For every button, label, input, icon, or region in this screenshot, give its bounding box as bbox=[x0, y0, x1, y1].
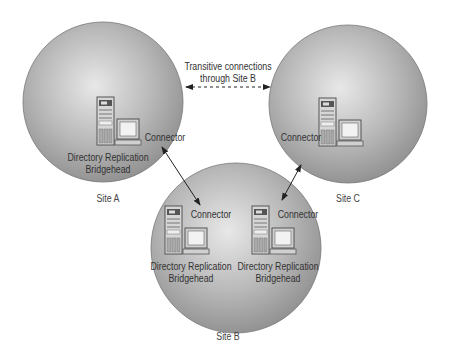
site-a-connector-label: Connector bbox=[143, 132, 187, 143]
site-b-right-connector-label: Connector bbox=[276, 209, 320, 220]
site-b-left-role-line1: Directory Replication bbox=[147, 261, 235, 272]
site-c-connector-label: Connector bbox=[279, 132, 323, 143]
site-a-role-line2: Bridgehead bbox=[64, 164, 152, 175]
site-b-right-role-line1: Directory Replication bbox=[234, 261, 322, 272]
site-c-label: Site C bbox=[322, 193, 375, 204]
site-a-role-line1: Directory Replication bbox=[64, 152, 152, 163]
site-a-label: Site A bbox=[82, 193, 135, 204]
transitive-note-line1: Transitive connections bbox=[184, 61, 272, 72]
site-b-label: Site B bbox=[202, 331, 255, 342]
site-c-sphere bbox=[269, 25, 427, 183]
site-b-left-role-line2: Bridgehead bbox=[147, 273, 235, 284]
site-b-right-role-line2: Bridgehead bbox=[234, 273, 322, 284]
site-b-left-connector-label: Connector bbox=[189, 209, 233, 220]
transitive-note-line2: through Site B bbox=[184, 73, 272, 84]
